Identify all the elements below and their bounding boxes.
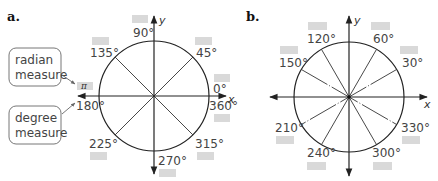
callout-arrow-degree [62, 103, 75, 114]
degree-label-30: 30° [402, 56, 423, 70]
answer-box-210[interactable] [276, 136, 294, 144]
degree-label-90: 90° [133, 26, 154, 40]
unit-circle-diagrams: a. x y 90° 135° 45° 0° 360° π 180° 225° … [0, 0, 438, 181]
y-axis-label-a: y [158, 14, 166, 27]
degree-label-360: 360° [209, 99, 238, 113]
callout-degree-line2: measure [15, 126, 67, 140]
answer-box-270[interactable] [159, 169, 176, 177]
y-axis-label-b: y [353, 14, 361, 27]
answer-box-315[interactable] [197, 152, 214, 160]
callout-radian-line1: radian [15, 53, 53, 67]
panel-b-label: b. [246, 9, 260, 24]
degree-label-225: 225° [89, 137, 118, 151]
degree-label-150: 150° [279, 56, 308, 70]
answer-box-240[interactable] [307, 162, 326, 170]
callout-degree-measure: degree measure [9, 103, 75, 144]
answer-box-150[interactable] [280, 46, 298, 54]
degree-label-300: 300° [372, 146, 401, 160]
answer-box-60[interactable] [371, 22, 390, 30]
answer-box-120[interactable] [308, 22, 327, 30]
degree-label-330: 330° [401, 121, 430, 135]
degree-label-45: 45° [196, 46, 217, 60]
answer-box-300[interactable] [373, 162, 392, 170]
panel-b: b. x y 120° 60° 150° 30° 210° 330° [246, 9, 431, 176]
degree-label-210: 210° [275, 121, 304, 135]
callout-radian-line2: measure [15, 68, 67, 82]
answer-box-135[interactable] [92, 37, 109, 45]
degree-label-240: 240° [307, 146, 336, 160]
x-axis-label-b: x [423, 98, 431, 111]
callout-radian-measure: radian measure [9, 48, 75, 86]
degree-label-0: 0° [213, 82, 227, 96]
callout-degree-line1: degree [15, 111, 57, 125]
origin-dot-b [347, 95, 351, 99]
panel-a-label: a. [7, 9, 20, 24]
answer-box-45[interactable] [195, 37, 212, 45]
degree-label-315: 315° [195, 137, 224, 151]
answer-box-0[interactable] [214, 74, 230, 82]
answer-box-30[interactable] [400, 46, 418, 54]
answer-box-330[interactable] [402, 136, 420, 144]
degree-label-60: 60° [373, 32, 394, 46]
answer-box-225[interactable] [90, 152, 107, 160]
answer-box-90[interactable] [132, 15, 148, 23]
degree-label-180: 180° [76, 99, 105, 113]
panel-a: a. x y 90° 135° 45° 0° 360° π 180° 225° … [7, 9, 238, 177]
degree-label-270: 270° [158, 154, 187, 168]
degree-label-120: 120° [307, 32, 336, 46]
radian-example-pi: π [80, 81, 88, 91]
answer-box-360[interactable] [214, 114, 230, 122]
degree-label-135: 135° [90, 46, 119, 60]
